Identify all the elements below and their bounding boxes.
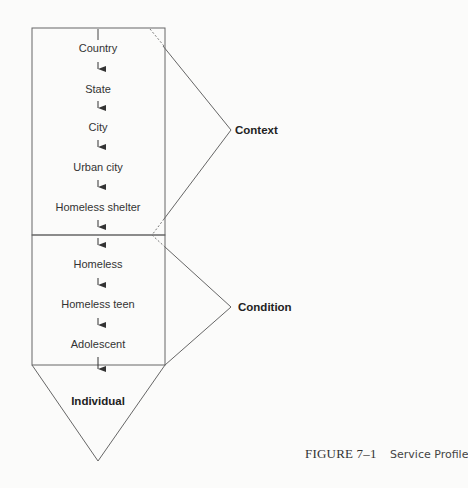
context-label: Context [235,124,278,137]
condition-bracket-dashed [152,235,165,247]
level-adolescent: Adolescent [71,338,125,351]
level-homeless: Homeless [74,258,123,271]
context-bracket-dashed [150,29,164,235]
level-city: City [89,121,108,134]
level-homeless-shelter: Homeless shelter [56,201,141,214]
level-homeless-teen: Homeless teen [61,298,134,311]
context-bracket [163,46,231,219]
condition-bracket [165,247,231,365]
condition-label: Condition [238,301,292,314]
level-country: Country [79,42,118,55]
level-state: State [85,83,111,96]
individual-triangle [32,365,165,461]
figure-caption: FIGURE 7–1 Service Profile [305,446,468,462]
figure-title: Service Profile [390,448,468,461]
figure-number: FIGURE 7–1 [305,446,377,461]
level-individual: Individual [71,395,125,408]
level-urban-city: Urban city [73,161,123,174]
